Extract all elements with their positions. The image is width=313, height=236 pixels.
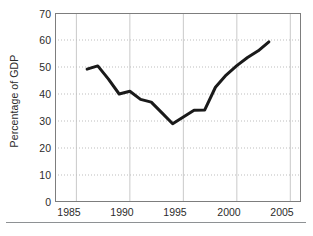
x-tick-2000: 2000 — [217, 206, 240, 218]
x-tick-1995: 1995 — [163, 206, 186, 218]
y-tick-40: 40 — [29, 88, 51, 100]
x-tick-1985: 1985 — [57, 206, 80, 218]
y-axis-tick-labels: 70 60 50 40 30 20 10 0 — [26, 0, 51, 236]
plot-frame — [56, 14, 301, 202]
data-line-percentage-of-gdp — [87, 42, 269, 124]
y-tick-50: 50 — [29, 61, 51, 73]
vertical-gridlines — [76, 13, 290, 202]
footer-caption — [6, 228, 308, 236]
y-tick-10: 10 — [29, 169, 51, 181]
y-tick-70: 70 — [29, 8, 51, 20]
plot-area — [55, 13, 301, 202]
chart-figure: Percentage of GDP 70 60 50 40 30 20 10 0… — [0, 0, 313, 236]
y-tick-60: 60 — [29, 34, 51, 46]
y-axis-label: Percentage of GDP — [8, 26, 20, 176]
x-tick-1990: 1990 — [110, 206, 133, 218]
horizontal-gridlines — [55, 40, 301, 175]
y-tick-30: 30 — [29, 115, 51, 127]
y-tick-0: 0 — [29, 196, 51, 208]
y-tick-20: 20 — [29, 142, 51, 154]
footer-divider — [6, 222, 306, 223]
x-tick-2005: 2005 — [270, 206, 293, 218]
